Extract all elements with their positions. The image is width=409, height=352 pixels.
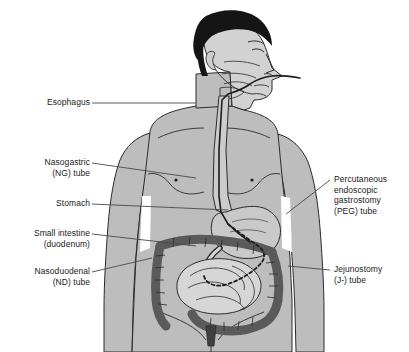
label-peg-tube: Percutaneous endoscopic gastrostomy (PEG… <box>334 174 408 216</box>
nipple-left <box>174 178 177 181</box>
rectum <box>206 326 216 346</box>
anatomical-diagram: Esophagus Nasogastric (NG) tube Stomach … <box>0 0 409 352</box>
label-stomach: Stomach <box>18 198 90 209</box>
nipple-right <box>250 178 253 181</box>
label-jejunostomy-tube: Jejunostomy (J-) tube <box>334 264 408 285</box>
label-small-intestine: Small intestine (duodenum) <box>4 228 90 249</box>
label-nasoduodenal-tube: Nasoduodenal (ND) tube <box>8 266 90 287</box>
label-nasogastric-tube: Nasogastric (NG) tube <box>14 157 90 178</box>
label-esophagus: Esophagus <box>18 97 90 108</box>
